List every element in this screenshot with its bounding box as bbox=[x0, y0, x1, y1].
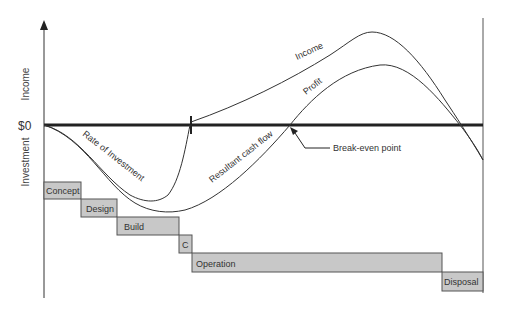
zero-label: $0 bbox=[18, 119, 32, 133]
income-curve bbox=[191, 32, 483, 160]
resultant-cash-flow-label: Resultant cash flow bbox=[207, 128, 275, 184]
svg-text:Build: Build bbox=[124, 222, 144, 232]
break-even-arrow-icon bbox=[290, 127, 298, 135]
axis-arrow-icon bbox=[40, 20, 48, 30]
break-even-label: Break-even point bbox=[333, 143, 402, 153]
phase-design: Design bbox=[81, 199, 117, 217]
phase-build: Build bbox=[117, 217, 179, 235]
phase-operation: Operation bbox=[192, 253, 442, 272]
svg-text:Concept: Concept bbox=[46, 186, 80, 196]
svg-text:Design: Design bbox=[86, 204, 114, 214]
svg-text:C: C bbox=[182, 240, 189, 250]
break-even-callout bbox=[290, 127, 330, 148]
lifecycle-cost-diagram: Income Investment $0 Rate of Investment … bbox=[0, 0, 505, 310]
diagram-canvas: Income Investment $0 Rate of Investment … bbox=[0, 0, 505, 310]
y-axis bbox=[40, 20, 48, 298]
phase-commissioning: C bbox=[179, 235, 192, 253]
svg-text:Operation: Operation bbox=[196, 259, 236, 269]
svg-text:Disposal: Disposal bbox=[444, 277, 479, 287]
y-lower-label: Investment bbox=[20, 137, 31, 186]
rate-of-investment-label: Rate of Investment bbox=[81, 129, 147, 184]
income-label: Income bbox=[294, 40, 325, 62]
phase-disposal: Disposal bbox=[442, 272, 483, 291]
y-upper-label: Income bbox=[20, 67, 31, 100]
phase-concept: Concept bbox=[44, 182, 81, 199]
